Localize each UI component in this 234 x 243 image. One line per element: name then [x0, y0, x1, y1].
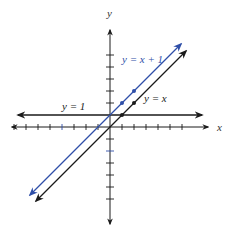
- label-y-equals-x-plus-1: y = x + 1: [121, 53, 163, 65]
- coordinate-plane-figure: y x y = x + 1 y = x y = 1: [0, 0, 234, 243]
- point-1-1: [120, 113, 124, 117]
- figure-caption-clipped: [78, 239, 154, 243]
- label-y-equals-x: y = x: [143, 92, 167, 104]
- line-y-equals-x-plus-1: [30, 44, 181, 195]
- label-y-equals-1: y = 1: [61, 100, 85, 112]
- x-axis-label: x: [216, 121, 222, 133]
- point-1-2: [120, 101, 124, 105]
- point-2-3: [132, 89, 136, 93]
- line-y-equals-x: [36, 51, 186, 201]
- point-2-2: [132, 101, 136, 105]
- y-axis-label: y: [106, 7, 112, 19]
